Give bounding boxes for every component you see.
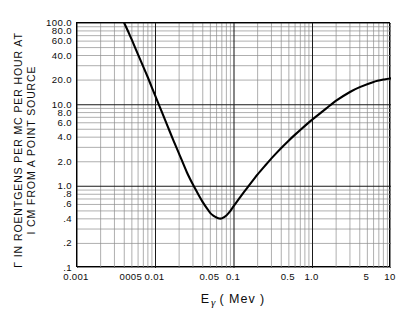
y-tick-label: .2	[63, 237, 72, 248]
x-axis-title: Eγ( Mev )	[76, 292, 390, 308]
y-tick-label: 100.0	[46, 17, 72, 28]
x-tick-label: 0.1	[226, 271, 240, 282]
plot-area	[76, 22, 390, 267]
x-axis-tick-labels: 0.00100050.010.050.10.51.0510	[76, 271, 390, 287]
x-tick-label: 0.5	[281, 271, 295, 282]
y-tick-label: 60.0	[52, 35, 72, 46]
y-tick-label: 4.0	[57, 131, 72, 142]
x-axis-title-symbol: E	[201, 292, 210, 306]
y-tick-label: .4	[63, 212, 72, 223]
y-tick-label: .6	[63, 198, 72, 209]
y-axis-tick-labels: .1.2.4.6.81.02.04.06.08.010.020.040.060.…	[0, 22, 72, 267]
x-tick-label: 10	[384, 271, 395, 282]
x-tick-label: 1.0	[304, 271, 318, 282]
x-tick-label: 0.05	[199, 271, 219, 282]
y-tick-label: 2.0	[57, 155, 72, 166]
chart-figure: Γ IN ROENTGENS PER MC PER HOUR AT I CM F…	[0, 0, 403, 321]
y-tick-label: 10.0	[52, 98, 72, 109]
x-axis-title-unit: ( Mev )	[219, 292, 265, 306]
y-tick-label: 6.0	[57, 116, 72, 127]
y-tick-label: 1.0	[57, 180, 72, 191]
x-tick-label: 0.01	[145, 271, 165, 282]
x-tick-label: 0.001	[63, 271, 89, 282]
x-axis-title-subscript: γ	[210, 296, 219, 308]
x-tick-label: 5	[364, 271, 370, 282]
x-tick-label: 0005	[120, 271, 143, 282]
y-tick-label: 20.0	[52, 74, 72, 85]
grid-and-curve	[77, 23, 391, 268]
y-tick-label: 40.0	[52, 49, 72, 60]
